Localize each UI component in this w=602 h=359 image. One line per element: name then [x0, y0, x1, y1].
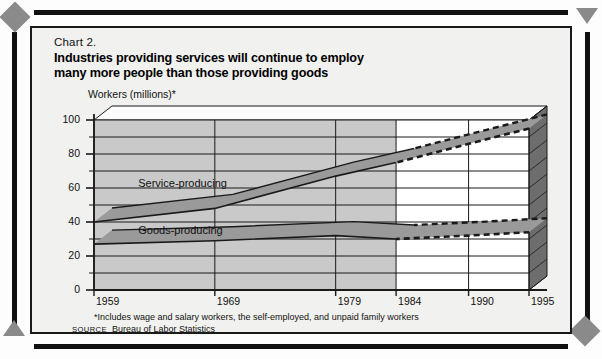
x-axis-tick-1995: 1995: [531, 295, 554, 307]
chart-card: Chart 2. Industries providing services w…: [30, 26, 572, 334]
y-axis-tick-20: 20: [54, 249, 80, 261]
chart-plot-area: [32, 28, 574, 336]
y-axis-tick-60: 60: [54, 181, 80, 193]
x-axis-tick-1969: 1969: [217, 295, 240, 307]
series-label-service-producing: Service-producing: [138, 177, 227, 189]
source-keyword: SOURCE: [72, 325, 107, 334]
series-label-goods-producing: Goods-producing: [138, 224, 222, 236]
x-axis-tick-1959: 1959: [96, 295, 119, 307]
frame-top-bar: [34, 10, 568, 15]
corner-diamond-top-left: [0, 1, 31, 32]
source-text: Bureau of Labor Statistics: [112, 324, 215, 334]
frame-bottom-bar: [34, 344, 568, 349]
x-axis-tick-1990: 1990: [471, 295, 494, 307]
corner-triangle-bottom-left: [3, 320, 25, 336]
x-axis-tick-1984: 1984: [398, 295, 421, 307]
frame-right-bar: [585, 32, 590, 327]
corner-triangle-top-right: [576, 8, 598, 24]
y-axis-tick-0: 0: [54, 283, 80, 295]
chart-source: SOURCEBureau of Labor Statistics: [72, 324, 215, 334]
y-axis-tick-40: 40: [54, 215, 80, 227]
x-axis-tick-1979: 1979: [338, 295, 361, 307]
corner-diamond-bottom-right: [569, 315, 600, 346]
frame-left-bar: [12, 32, 17, 327]
chart-footnote: *Includes wage and salary workers, the s…: [94, 312, 419, 322]
y-axis-tick-100: 100: [54, 113, 80, 125]
y-axis-tick-80: 80: [54, 147, 80, 159]
screenshot-page: Chart 2. Industries providing services w…: [0, 0, 602, 359]
